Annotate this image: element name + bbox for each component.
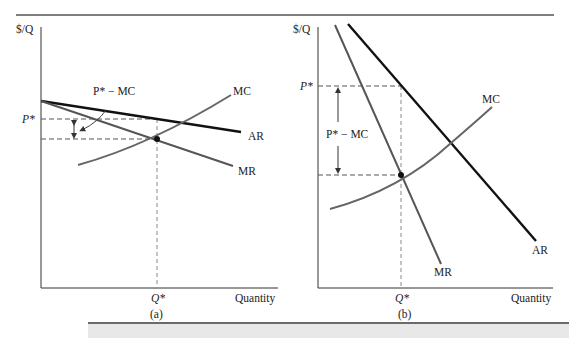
ar-label: AR (248, 130, 264, 142)
markup-label: P* − MC (326, 128, 369, 140)
panel-caption: (b) (398, 308, 412, 321)
panel-b: $/Q P* P* − MC MC AR MR Q* Quantity (b) (293, 23, 553, 321)
quantity-star-label: Q* (395, 292, 409, 304)
panel-a: $/Q P* P* − MC MC AR MR Q* Quantity (a) (16, 23, 278, 321)
quantity-star-label: Q* (151, 292, 165, 304)
mr-label: MR (238, 165, 256, 177)
mr-label: MR (434, 266, 452, 278)
price-label: P* (21, 113, 35, 125)
markup-diagram: $/Q P* P* − MC MC AR MR Q* Quantity (a) … (0, 0, 569, 338)
y-axis-label: $/Q (16, 23, 34, 35)
markup-callout (82, 110, 106, 130)
bottom-band (88, 322, 569, 338)
markup-label: P* − MC (93, 85, 136, 97)
mc-label: MC (482, 93, 500, 105)
y-axis-label: $/Q (293, 23, 311, 35)
mc-curve (330, 107, 492, 209)
mc-curve (78, 95, 231, 165)
mc-label: MC (233, 85, 251, 97)
price-label: P* (299, 80, 313, 92)
equilibrium-point (154, 136, 160, 142)
x-axis-label: Quantity (235, 292, 275, 305)
ar-curve (41, 101, 241, 132)
mr-curve (335, 25, 441, 264)
ar-curve (348, 24, 536, 241)
ar-label: AR (532, 244, 548, 256)
panel-caption: (a) (150, 308, 163, 321)
equilibrium-point (398, 172, 404, 178)
x-axis-label: Quantity (511, 292, 551, 305)
